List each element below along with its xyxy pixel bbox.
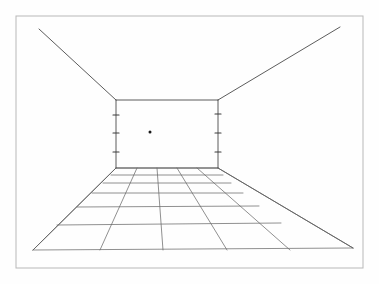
vanishing-point-dot <box>149 131 152 134</box>
perspective-drawing-canvas <box>0 0 379 284</box>
room-perspective-svg <box>0 0 379 284</box>
paper-background <box>0 0 379 284</box>
